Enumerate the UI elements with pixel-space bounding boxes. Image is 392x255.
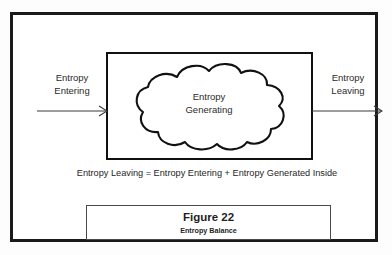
- figure-outer-frame: Entropy Generating Entropy Entering Entr…: [10, 12, 378, 242]
- entropy-leaving-line2: Leaving: [311, 85, 385, 98]
- entropy-balance-figure: Entropy Generating Entropy Entering Entr…: [0, 0, 392, 255]
- cloud-label-line1: Entropy: [125, 91, 293, 104]
- entropy-leaving-line1: Entropy: [311, 72, 385, 85]
- entropy-entering-line1: Entropy: [35, 72, 109, 85]
- cloud-label-line2: Generating: [125, 104, 293, 117]
- figure-caption-subtitle: Entropy Balance: [180, 225, 237, 236]
- entropy-entering-line2: Entering: [35, 85, 109, 98]
- figure-caption-title: Figure 22: [183, 210, 234, 224]
- cloud-label: Entropy Generating: [125, 91, 293, 116]
- entropy-leaving-arrow: [312, 105, 383, 117]
- entropy-leaving-label: Entropy Leaving: [311, 72, 385, 97]
- entropy-entering-arrow: [37, 105, 108, 117]
- entropy-balance-equation: Entropy Leaving = Entropy Entering + Ent…: [27, 167, 387, 179]
- figure-caption-box: Figure 22 Entropy Balance: [86, 205, 331, 240]
- entropy-entering-label: Entropy Entering: [35, 72, 109, 97]
